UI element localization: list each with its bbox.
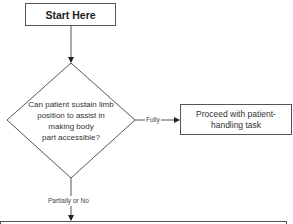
- start-node-label: Start Here: [45, 9, 95, 21]
- next-node: [0, 221, 287, 224]
- edge-label-fully: Fully: [145, 116, 161, 124]
- start-node: Start Here: [25, 3, 116, 26]
- proceed-node: Proceed with patient-handling task: [180, 104, 292, 135]
- flowchart-canvas: Start Here Can patient sustain limb posi…: [0, 0, 293, 224]
- proceed-node-label: Proceed with patient-handling task: [187, 109, 285, 131]
- decision-node-label: Can patient sustain limb position to ass…: [22, 99, 120, 143]
- edge-label-partially-or-no: Partially or No: [48, 196, 89, 206]
